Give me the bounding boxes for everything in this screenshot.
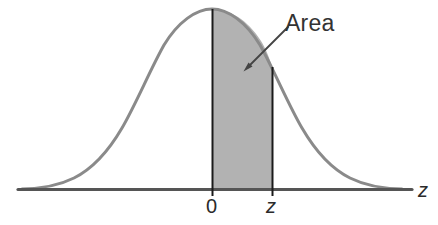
tick-label-z: z <box>266 196 276 216</box>
tick-label-zero: 0 <box>206 196 217 216</box>
normal-curve-plot <box>0 0 438 225</box>
area-label: Area <box>285 12 334 35</box>
x-axis-label: z <box>418 180 428 200</box>
normal-distribution-figure: Area 0 z z <box>0 0 438 225</box>
shaded-area-region <box>212 9 273 189</box>
